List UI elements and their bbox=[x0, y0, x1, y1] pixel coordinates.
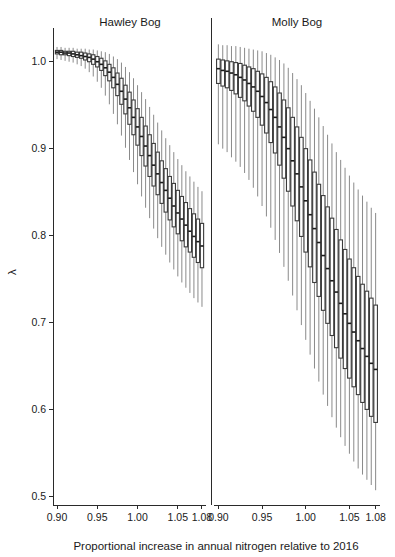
box-plot-item bbox=[265, 53, 269, 216]
box-plot-item bbox=[104, 52, 107, 95]
box-plot-item bbox=[286, 68, 290, 281]
box-iqr bbox=[265, 77, 269, 133]
box-plot-item bbox=[84, 49, 87, 69]
box-plot-item bbox=[300, 85, 304, 325]
box-plot-item bbox=[55, 47, 58, 59]
box-plot-item bbox=[260, 51, 264, 206]
box-plot-item bbox=[128, 72, 131, 160]
box-plot-item bbox=[308, 101, 312, 355]
x-tick-label-panel1: 0.95 bbox=[87, 511, 108, 523]
x-axis-title: Proportional increase in annual nitrogen… bbox=[73, 540, 358, 552]
box-iqr bbox=[308, 160, 312, 267]
box-plot-item bbox=[152, 115, 155, 229]
box-iqr bbox=[196, 219, 199, 262]
box-plot-item bbox=[365, 202, 369, 480]
box-plot-item bbox=[67, 48, 70, 62]
boxplot-figure: Hawley BogMolly Bog 0.50.60.70.80.91.00.… bbox=[0, 0, 395, 557]
box-iqr bbox=[225, 61, 229, 88]
box-iqr bbox=[356, 276, 360, 394]
figure-container: Hawley BogMolly Bog 0.50.60.70.80.91.00.… bbox=[0, 0, 395, 557]
box-iqr bbox=[238, 63, 242, 97]
box-plot-item bbox=[96, 50, 99, 81]
box-plot-item bbox=[100, 51, 103, 88]
box-plot-item bbox=[374, 213, 378, 490]
box-plot-item bbox=[225, 45, 229, 152]
box-iqr bbox=[172, 183, 175, 226]
x-tick-label-panel1: 1.05 bbox=[168, 511, 189, 523]
box-plot-item bbox=[313, 109, 317, 369]
x-tick-label-panel2: 0.95 bbox=[252, 511, 273, 523]
x-tick-label-panel1: 1.08 bbox=[192, 511, 213, 523]
box-plot-item bbox=[352, 183, 356, 462]
y-tick-label: 0.7 bbox=[31, 316, 46, 328]
box-plot-item bbox=[356, 189, 360, 468]
box-iqr bbox=[273, 87, 277, 153]
box-iqr bbox=[252, 69, 256, 112]
box-iqr bbox=[188, 209, 191, 252]
box-iqr bbox=[365, 291, 369, 409]
y-tick-label: 0.5 bbox=[31, 490, 46, 502]
box-plot-item bbox=[132, 78, 135, 172]
box-plot-item bbox=[124, 67, 127, 148]
box-iqr bbox=[260, 74, 264, 125]
box-iqr bbox=[348, 259, 352, 378]
box-iqr bbox=[192, 214, 195, 257]
box-plot-item bbox=[160, 130, 163, 246]
box-plot-item bbox=[230, 46, 234, 157]
box-plot-item bbox=[273, 57, 277, 240]
box-plot-item bbox=[252, 50, 256, 188]
x-tick-label-panel1: 1.00 bbox=[127, 511, 148, 523]
box-plot-item bbox=[112, 57, 115, 114]
box-iqr bbox=[269, 82, 273, 143]
x-tick-label-panel2: 1.08 bbox=[365, 511, 386, 523]
box-plot-item bbox=[59, 47, 62, 60]
y-tick-label: 1.0 bbox=[31, 55, 46, 67]
box-plot-item bbox=[140, 92, 143, 196]
box-plot-item bbox=[317, 117, 321, 381]
box-plot-item bbox=[343, 168, 347, 446]
box-plot-item bbox=[172, 152, 175, 269]
box-plot-item bbox=[63, 48, 66, 61]
box-plot-item bbox=[200, 191, 203, 307]
box-plot-item bbox=[369, 208, 373, 485]
box-plot-item bbox=[221, 45, 225, 148]
box-plot-item bbox=[234, 46, 238, 162]
box-plot-item bbox=[120, 63, 123, 136]
box-iqr bbox=[286, 108, 290, 191]
box-iqr bbox=[343, 249, 347, 368]
box-plot-item bbox=[76, 49, 79, 65]
box-plot-item bbox=[156, 123, 159, 239]
box-plot-item bbox=[335, 152, 339, 428]
box-iqr bbox=[313, 172, 317, 282]
y-tick-label: 0.9 bbox=[31, 142, 46, 154]
box-plot-item bbox=[326, 135, 330, 406]
box-iqr bbox=[247, 67, 251, 106]
box-iqr bbox=[234, 63, 238, 94]
box-plot-item bbox=[92, 50, 95, 77]
box-iqr bbox=[335, 229, 339, 347]
box-iqr bbox=[317, 184, 321, 296]
box-plot-item bbox=[247, 49, 251, 180]
box-iqr bbox=[256, 71, 260, 117]
box-plot-item bbox=[80, 49, 83, 66]
box-iqr bbox=[374, 305, 378, 422]
box-plot-item bbox=[180, 165, 183, 282]
box-plot-item bbox=[176, 159, 179, 276]
box-plot-item bbox=[168, 145, 171, 262]
panel-title-hawley-bog: Hawley Bog bbox=[99, 16, 160, 28]
box-plot-item bbox=[256, 50, 260, 196]
box-iqr bbox=[278, 93, 282, 165]
box-iqr bbox=[361, 284, 365, 402]
box-plot-item bbox=[108, 54, 111, 104]
box-plot-item bbox=[184, 171, 187, 287]
box-plot-item bbox=[295, 79, 299, 310]
box-plot-item bbox=[88, 50, 91, 73]
x-tick-label-panel1: 0.90 bbox=[47, 511, 68, 523]
y-axis-title: λ bbox=[6, 269, 18, 275]
box-plot-item bbox=[330, 143, 334, 417]
box-plot-item bbox=[339, 160, 343, 437]
box-iqr bbox=[339, 240, 343, 358]
box-plot-item bbox=[238, 47, 242, 167]
box-plot-item bbox=[278, 60, 282, 253]
box-iqr bbox=[176, 190, 179, 233]
